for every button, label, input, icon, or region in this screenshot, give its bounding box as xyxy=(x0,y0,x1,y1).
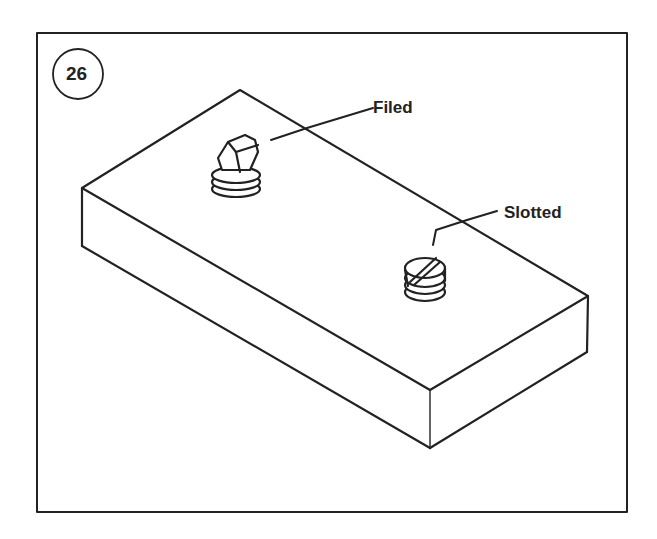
diagram-canvas xyxy=(0,0,657,539)
slotted-label: Slotted xyxy=(504,203,562,223)
figure-number: 26 xyxy=(66,63,87,85)
block xyxy=(82,90,588,448)
filed-label: Filed xyxy=(373,98,413,118)
slotted-screw xyxy=(405,258,445,301)
